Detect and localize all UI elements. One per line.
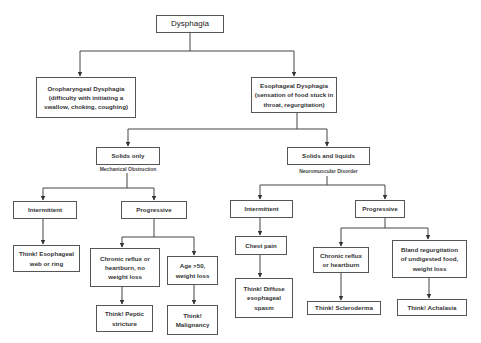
label-neuromuscular-disorder: Neuromuscular Disorder	[287, 168, 370, 174]
node-label: Think! Achalasia	[408, 303, 457, 312]
node-solids-and-liquids: Solids and liquids	[287, 147, 370, 165]
node-label: Progressive	[362, 204, 397, 213]
node-label: Think! Peptic stricture	[105, 309, 144, 328]
node-progressive-mechanical: Progressive	[121, 201, 187, 219]
node-oropharyngeal-dysphagia: Oropharyngeal Dysphagia (difficulty with…	[36, 77, 136, 118]
node-intermittent-mechanical: Intermittent	[13, 201, 77, 219]
node-intermittent-neuromuscular: Intermittent	[230, 200, 293, 218]
node-label: Age >50, weight loss	[176, 261, 210, 280]
node-progressive-neuromuscular: Progressive	[355, 200, 405, 218]
node-dysphagia: Dysphagia	[156, 15, 224, 33]
node-chronic-reflux-no-weight-loss: Chronic reflux or heartburn, no weight l…	[90, 248, 160, 287]
node-label: Chronic reflux or heartburn, no weight l…	[100, 254, 150, 282]
node-label: Think! Esophageal web or ring	[19, 249, 74, 268]
node-label: Intermittent	[244, 204, 278, 213]
node-label: Oropharyngeal Dysphagia (difficulty with…	[44, 84, 128, 112]
node-think-peptic-stricture: Think! Peptic stricture	[96, 305, 153, 332]
node-solids-only: Solids only	[96, 147, 160, 165]
node-esophageal-dysphagia: Esophageal Dysphagia (sensation of food …	[251, 77, 337, 113]
node-label: Intermittent	[28, 205, 62, 214]
node-label: Solids only	[111, 151, 144, 160]
node-label: Bland regurgitation of undigested food, …	[401, 245, 458, 273]
node-label: Think! Diffuse esophageal spasm	[243, 284, 284, 312]
node-think-malignancy: Think! Malignancy	[167, 305, 218, 335]
node-chronic-reflux-heartburn: Chronic reflux or heartburn	[313, 247, 369, 273]
node-bland-regurgitation: Bland regurgitation of undigested food, …	[392, 240, 467, 278]
node-label: Chest pain	[245, 241, 277, 250]
node-think-diffuse-esophageal-spasm: Think! Diffuse esophageal spasm	[235, 278, 293, 318]
label-mechanical-obstruction: Mechanical Obstruction	[96, 166, 160, 172]
node-label: Solids and liquids	[302, 151, 355, 160]
node-label: Esophageal Dysphagia (sensation of food …	[255, 81, 334, 109]
node-label: Progressive	[136, 205, 171, 214]
node-age-over-50: Age >50, weight loss	[167, 256, 218, 285]
node-label: Think! Malignancy	[176, 311, 210, 330]
node-label: Think! Scleroderma	[315, 303, 373, 312]
node-label: Chronic reflux or heartburn	[320, 251, 362, 270]
node-think-esophageal-web: Think! Esophageal web or ring	[13, 245, 80, 272]
node-label: Dysphagia	[171, 18, 209, 30]
node-think-scleroderma: Think! Scleroderma	[307, 301, 381, 315]
node-think-achalasia: Think! Achalasia	[397, 299, 467, 316]
node-chest-pain: Chest pain	[235, 236, 287, 255]
